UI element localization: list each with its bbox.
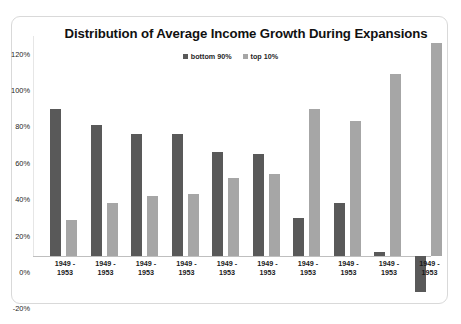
bar-group-bars	[126, 16, 167, 281]
bar-group-bars	[369, 16, 410, 281]
bar-group-bars	[86, 16, 127, 281]
bar-group-bars	[410, 16, 451, 281]
bar-group: 1949 - 1953	[167, 16, 208, 281]
page-caption	[14, 313, 446, 322]
bar-group: 1949 - 1953	[410, 16, 451, 281]
bar-top-10[interactable]	[390, 74, 401, 256]
bar-group: 1949 - 1953	[288, 16, 329, 281]
bar-group: 1949 - 1953	[86, 16, 127, 281]
bar-group-bars	[167, 16, 208, 281]
bar-group-bars	[45, 16, 86, 281]
y-axis: 120%100%80%60%40%20%0%-20%	[0, 16, 30, 306]
bar-group: 1949 - 1953	[248, 16, 289, 281]
bar-top-10[interactable]	[431, 43, 442, 256]
bar-bottom-90[interactable]	[293, 218, 304, 256]
bar-bottom-90[interactable]	[374, 252, 385, 256]
bar-top-10[interactable]	[107, 203, 118, 256]
x-axis-tick-label: 1949 - 1953	[286, 259, 330, 277]
y-axis-tick-label: 40%	[0, 195, 30, 204]
bar-top-10[interactable]	[228, 178, 239, 256]
y-axis-tick-label: 20%	[0, 231, 30, 240]
bar-bottom-90[interactable]	[172, 134, 183, 256]
x-axis-tick-label: 1949 - 1953	[165, 259, 209, 277]
plot-area: 1949 - 19531949 - 19531949 - 19531949 - …	[33, 16, 431, 281]
bar-top-10[interactable]	[66, 220, 77, 256]
x-axis-tick-label: 1949 - 1953	[84, 259, 128, 277]
x-axis-tick-label: 1949 - 1953	[327, 259, 371, 277]
bar-bottom-90[interactable]	[212, 152, 223, 256]
y-axis-tick-label: -20%	[0, 304, 30, 313]
bar-group-bars	[207, 16, 248, 281]
bar-top-10[interactable]	[269, 174, 280, 256]
bar-group-bars	[288, 16, 329, 281]
bar-bottom-90[interactable]	[131, 134, 142, 256]
x-axis-tick-label: 1949 - 1953	[205, 259, 249, 277]
y-axis-tick-label: 100%	[0, 86, 30, 95]
bar-top-10[interactable]	[147, 196, 158, 256]
y-axis-tick-label: 0%	[0, 268, 30, 277]
bar-top-10[interactable]	[309, 109, 320, 256]
y-axis-tick-label: 60%	[0, 158, 30, 167]
x-axis-tick-label: 1949 - 1953	[408, 259, 452, 277]
x-axis-tick-label: 1949 - 1953	[367, 259, 411, 277]
x-axis-tick-label: 1949 - 1953	[124, 259, 168, 277]
bar-bottom-90[interactable]	[91, 125, 102, 256]
bar-bottom-90[interactable]	[50, 109, 61, 256]
y-axis-tick-label: 80%	[0, 122, 30, 131]
bar-top-10[interactable]	[188, 194, 199, 256]
bar-group: 1949 - 1953	[45, 16, 86, 281]
bar-group: 1949 - 1953	[207, 16, 248, 281]
x-axis-tick-label: 1949 - 1953	[43, 259, 87, 277]
bar-bottom-90[interactable]	[253, 154, 264, 256]
bar-group: 1949 - 1953	[126, 16, 167, 281]
x-axis-tick-label: 1949 - 1953	[246, 259, 290, 277]
bar-bottom-90[interactable]	[334, 203, 345, 256]
bar-group: 1949 - 1953	[329, 16, 370, 281]
bar-group: 1949 - 1953	[369, 16, 410, 281]
bar-group-bars	[329, 16, 370, 281]
y-axis-tick-label: 120%	[0, 49, 30, 58]
bar-group-bars	[248, 16, 289, 281]
bar-top-10[interactable]	[350, 121, 361, 256]
